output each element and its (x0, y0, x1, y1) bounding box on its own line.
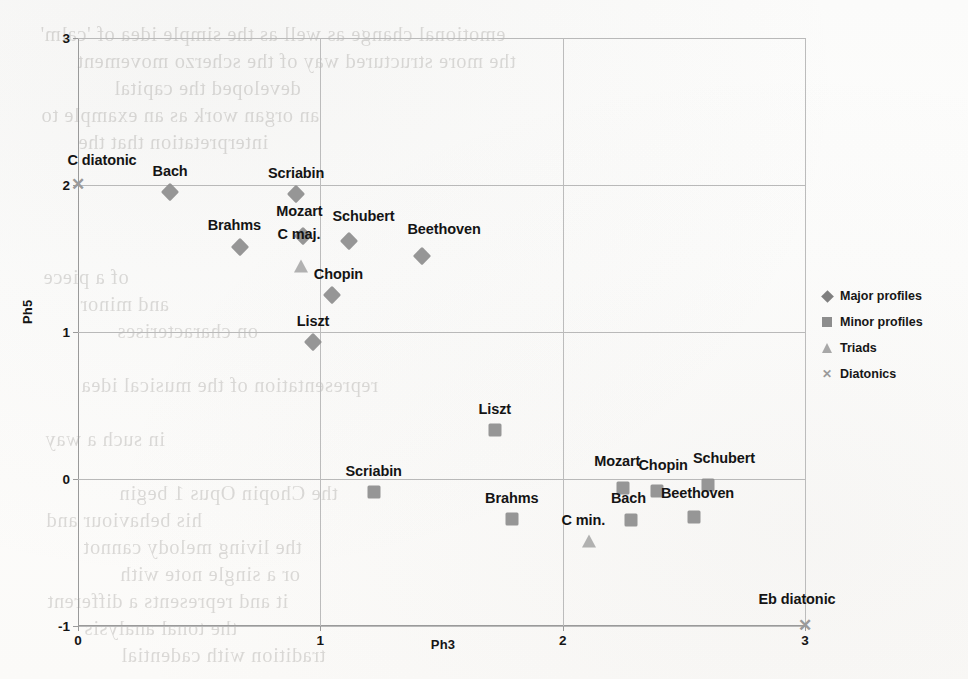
data-point-label: C min. (561, 512, 605, 528)
x-tick-mark (563, 626, 564, 631)
data-point-label: Scriabin (268, 165, 324, 181)
data-point-label: Schubert (332, 208, 394, 224)
data-point-cross-marker: ✕ (797, 618, 813, 634)
legend-item-label: Minor profiles (840, 315, 923, 329)
data-point-label: Brahms (208, 217, 261, 233)
y-tick-mark (73, 332, 78, 333)
data-point-square-marker (488, 424, 501, 437)
data-point-label: C diatonic (67, 152, 136, 168)
square-icon-glyph (822, 317, 832, 327)
gridline-horizontal (78, 332, 805, 333)
x-tick-label: 3 (801, 633, 809, 648)
cross-icon-glyph: ✕ (822, 368, 832, 380)
data-point-label: Chopin (314, 266, 363, 282)
legend-item[interactable]: Major profiles (820, 283, 923, 309)
data-point-label: Brahms (485, 490, 538, 506)
data-point-label: Beethoven (407, 221, 480, 237)
data-point-diamond-marker (413, 246, 431, 264)
legend-item-label: Diatonics (840, 367, 896, 381)
legend-item[interactable]: Triads (820, 335, 923, 361)
data-point-label: Liszt (479, 401, 512, 417)
x-tick-label: 2 (559, 633, 567, 648)
data-point-diamond-marker (340, 232, 358, 250)
data-point-label: Mozart (594, 453, 640, 469)
y-tick-label: 0 (62, 472, 70, 487)
x-tick-label: 0 (74, 633, 82, 648)
data-point-label: Schubert (693, 450, 755, 466)
data-point-square-marker (624, 514, 637, 527)
y-tick-mark (73, 38, 78, 39)
data-point-label: C maj. (277, 226, 320, 242)
legend-item[interactable]: Minor profiles (820, 309, 923, 335)
x-axis-label: Ph3 (431, 637, 455, 652)
y-tick-label: 2 (62, 178, 70, 193)
data-point-square-marker (505, 512, 518, 525)
triangle-icon-glyph (822, 343, 832, 353)
square-icon (820, 315, 834, 329)
data-point-label: Eb diatonic (758, 591, 835, 607)
data-point-diamond-marker (287, 185, 305, 203)
data-point-label: Bach (611, 490, 646, 506)
gridline-horizontal (78, 38, 805, 39)
y-axis-label: Ph5 (20, 300, 35, 324)
data-point-square-marker (367, 486, 380, 499)
data-point-label: Liszt (297, 313, 330, 329)
x-tick-mark (320, 626, 321, 631)
y-tick-mark (73, 479, 78, 480)
gridline-horizontal (78, 479, 805, 480)
gridline-vertical (320, 38, 321, 626)
y-tick-label: 3 (62, 31, 70, 46)
data-point-diamond-marker (323, 286, 341, 304)
data-point-square-marker (687, 511, 700, 524)
diamond-icon (820, 289, 834, 303)
data-point-triangle-marker (582, 534, 596, 547)
legend-item-label: Triads (840, 341, 877, 355)
data-point-label: Bach (153, 163, 188, 179)
data-point-label: Scriabin (345, 463, 401, 479)
diamond-icon-glyph (821, 290, 834, 303)
gridline-horizontal (78, 626, 805, 627)
cross-icon: ✕ (820, 367, 834, 381)
gridline-vertical (563, 38, 564, 626)
y-tick-label: 1 (62, 325, 70, 340)
chart-legend: Major profilesMinor profilesTriads✕Diato… (820, 283, 923, 387)
y-tick-label: -1 (58, 619, 70, 634)
data-point-diamond-marker (231, 238, 249, 256)
x-tick-label: 1 (317, 633, 325, 648)
data-point-label: Chopin (639, 457, 688, 473)
legend-item[interactable]: ✕Diatonics (820, 361, 923, 387)
triangle-icon (820, 341, 834, 355)
gridline-horizontal (78, 185, 805, 186)
x-tick-mark (78, 626, 79, 631)
gridline-vertical (805, 38, 806, 626)
data-point-cross-marker: ✕ (70, 177, 86, 193)
data-point-label: Beethoven (661, 485, 734, 501)
plot-area: -101230123BachScriabinBrahmsMozartSchube… (78, 38, 805, 626)
data-point-label: Mozart (276, 203, 322, 219)
legend-item-label: Major profiles (840, 289, 922, 303)
data-point-triangle-marker (294, 259, 308, 272)
